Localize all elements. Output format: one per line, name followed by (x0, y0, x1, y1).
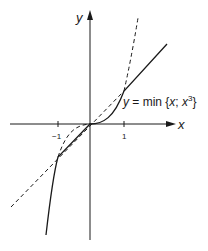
y-axis-arrow-icon (87, 10, 93, 20)
x-axis-arrow-icon (166, 121, 176, 127)
y-axis-label: y (75, 10, 84, 25)
dashed-line-y-equals-x (11, 91, 124, 207)
x-axis-label: x (177, 117, 185, 132)
tick-label-pos1: 1 (122, 132, 127, 141)
formula-annotation: y = min {x; x3} (122, 94, 197, 109)
tick-label-neg1: −1 (52, 132, 62, 141)
function-graph: y x −1 1 y = min {x; x3} (0, 0, 208, 251)
solid-curve-min (46, 44, 167, 235)
dashed-cubic-upper (124, 18, 138, 91)
